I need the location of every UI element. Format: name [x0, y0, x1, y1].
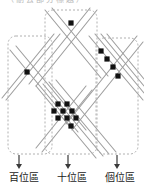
diagram-canvas	[0, 0, 144, 187]
lattice-line-9	[95, 34, 144, 93]
dot-tens-9	[68, 123, 73, 128]
lattice-lines-group	[2, 8, 144, 158]
dot-tens-5	[69, 108, 74, 113]
region-arrows-group	[16, 155, 120, 169]
dot-ones-1	[104, 56, 109, 61]
region-label-tens: 十位區	[48, 168, 96, 187]
dot-tens-7	[64, 115, 69, 120]
dot-tens-8	[73, 115, 78, 120]
dot-tens-4	[60, 108, 65, 113]
dot-ones-2	[110, 64, 115, 69]
lattice-line-17	[42, 90, 92, 152]
lattice-line-13	[29, 8, 90, 84]
region-labels-row: 百位區 十位區 個位區	[0, 168, 144, 187]
dot-tens-6	[55, 115, 60, 120]
lattice-line-3	[52, 8, 108, 76]
region-label-hundreds: 百位區	[0, 168, 48, 187]
dot-tens-0	[68, 20, 73, 25]
dot-tens-1	[55, 101, 60, 106]
dot-ones-3	[115, 73, 120, 78]
lattice-diagram: （刪去部分標題） 百位區 十位區 個位區	[0, 0, 144, 187]
dot-tens-3	[51, 108, 56, 113]
dot-ones-0	[98, 48, 103, 53]
dot-hundreds-0	[24, 69, 29, 74]
lattice-line-2	[45, 10, 101, 78]
region-label-ones: 個位區	[96, 168, 144, 187]
region-boxes-group	[8, 10, 138, 154]
dot-tens-2	[64, 101, 69, 106]
